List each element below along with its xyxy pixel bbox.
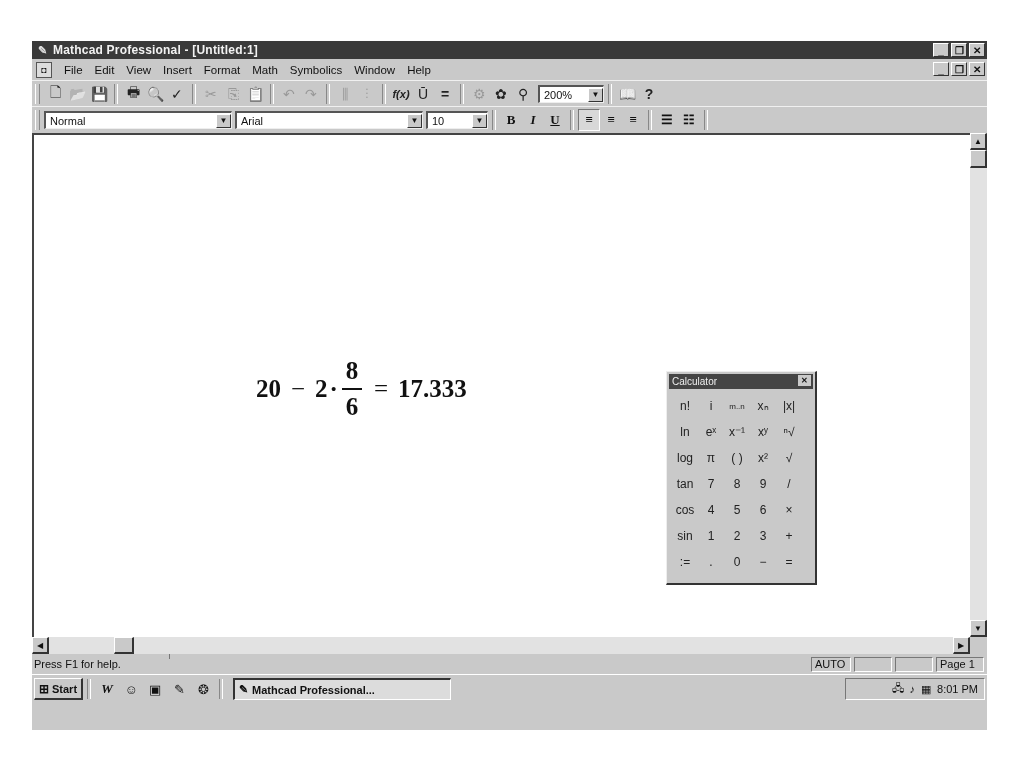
key-0[interactable]: 0: [724, 549, 750, 575]
nth-root-key[interactable]: ⁿ√: [776, 419, 802, 445]
key-4[interactable]: 4: [698, 497, 724, 523]
vertical-scroll-thumb[interactable]: [970, 150, 987, 168]
align-left-button[interactable]: ≡: [578, 109, 600, 131]
power-key[interactable]: xʸ: [750, 419, 776, 445]
open-icon[interactable]: 📂: [66, 83, 88, 105]
insert-unit-icon[interactable]: Ū: [412, 83, 434, 105]
underline-button[interactable]: U: [544, 109, 566, 131]
network-icon[interactable]: 🖧: [892, 680, 904, 699]
quicklaunch-icon-3[interactable]: ▣: [145, 679, 165, 699]
close-button[interactable]: ✕: [969, 43, 985, 57]
save-icon[interactable]: 💾: [88, 83, 110, 105]
bullets-button[interactable]: ☰: [656, 109, 678, 131]
horizontal-scrollbar[interactable]: ◀ ▶: [32, 637, 970, 654]
absolute-value-key[interactable]: |x|: [776, 393, 802, 419]
volume-icon[interactable]: ♪: [910, 683, 916, 695]
key-2[interactable]: 2: [724, 523, 750, 549]
copy-icon[interactable]: ⎘: [222, 83, 244, 105]
menu-edit[interactable]: Edit: [89, 64, 121, 76]
define-key[interactable]: :=: [672, 549, 698, 575]
inverse-key[interactable]: x⁻¹: [724, 419, 750, 445]
numbering-button[interactable]: ☷: [678, 109, 700, 131]
key-9[interactable]: 9: [750, 471, 776, 497]
exp-key[interactable]: eˣ: [698, 419, 724, 445]
quicklaunch-icon-5[interactable]: ❂: [193, 679, 213, 699]
italic-button[interactable]: I: [522, 109, 544, 131]
key-7[interactable]: 7: [698, 471, 724, 497]
insert-component-icon[interactable]: ⚙: [468, 83, 490, 105]
key-3[interactable]: 3: [750, 523, 776, 549]
task-mathcad[interactable]: ✎ Mathcad Professional...: [233, 678, 451, 700]
chevron-down-icon[interactable]: ▼: [216, 114, 231, 128]
key-6[interactable]: 6: [750, 497, 776, 523]
equals-key[interactable]: =: [776, 549, 802, 575]
toolbar-grip[interactable]: [35, 84, 40, 104]
word-icon[interactable]: W: [97, 679, 117, 699]
pi-key[interactable]: π: [698, 445, 724, 471]
chevron-down-icon[interactable]: ▼: [407, 114, 422, 128]
bold-button[interactable]: B: [500, 109, 522, 131]
print-preview-icon[interactable]: 🔍: [144, 83, 166, 105]
factorial-key[interactable]: n!: [672, 393, 698, 419]
calculate-icon[interactable]: =: [434, 83, 456, 105]
key-1[interactable]: 1: [698, 523, 724, 549]
electronic-book-icon[interactable]: ⚲: [512, 83, 534, 105]
zoom-select[interactable]: 200% ▼: [538, 85, 604, 103]
square-root-key[interactable]: √: [776, 445, 802, 471]
restore-button[interactable]: ❐: [951, 43, 967, 57]
minus-key[interactable]: −: [750, 549, 776, 575]
minimize-button[interactable]: _: [933, 43, 949, 57]
document-icon[interactable]: ◘: [36, 62, 52, 78]
ln-key[interactable]: ln: [672, 419, 698, 445]
menu-file[interactable]: File: [58, 64, 89, 76]
scroll-left-icon[interactable]: ◀: [32, 637, 49, 654]
tray-app-icon[interactable]: ▦: [921, 683, 931, 696]
insert-function-icon[interactable]: f(x): [390, 83, 412, 105]
menu-math[interactable]: Math: [246, 64, 284, 76]
menu-insert[interactable]: Insert: [157, 64, 198, 76]
align-right-button[interactable]: ≡: [622, 109, 644, 131]
horizontal-scroll-thumb[interactable]: [114, 637, 134, 654]
font-select[interactable]: Arial ▼: [235, 111, 423, 129]
menu-format[interactable]: Format: [198, 64, 246, 76]
scroll-right-icon[interactable]: ▶: [953, 637, 970, 654]
print-icon[interactable]: 🖶: [122, 83, 144, 105]
clock[interactable]: 8:01 PM: [937, 683, 978, 695]
resource-center-icon[interactable]: 📖: [616, 83, 638, 105]
tan-key[interactable]: tan: [672, 471, 698, 497]
log-key[interactable]: log: [672, 445, 698, 471]
scroll-down-icon[interactable]: ▼: [970, 620, 987, 637]
multiply-key[interactable]: ×: [776, 497, 802, 523]
cut-icon[interactable]: ✂: [200, 83, 222, 105]
sin-key[interactable]: sin: [672, 523, 698, 549]
font-size-select[interactable]: 10 ▼: [426, 111, 488, 129]
menu-symbolics[interactable]: Symbolics: [284, 64, 348, 76]
quicklaunch-icon-4[interactable]: ✎: [169, 679, 189, 699]
close-icon[interactable]: ✕: [798, 375, 811, 386]
calculator-title-bar[interactable]: Calculator ✕: [669, 374, 813, 389]
doc-restore-button[interactable]: ❐: [951, 62, 967, 76]
menu-help[interactable]: Help: [401, 64, 437, 76]
align-down-icon[interactable]: ⫶: [356, 83, 378, 105]
plus-key[interactable]: +: [776, 523, 802, 549]
range-key[interactable]: m..n: [724, 393, 750, 419]
cos-key[interactable]: cos: [672, 497, 698, 523]
divide-key[interactable]: /: [776, 471, 802, 497]
menu-window[interactable]: Window: [348, 64, 401, 76]
doc-close-button[interactable]: ✕: [969, 62, 985, 76]
worksheet[interactable]: 20 − 2 · 8 6 = 17.333 Calculator ✕ n! i …: [32, 133, 970, 637]
doc-minimize-button[interactable]: _: [933, 62, 949, 76]
redo-icon[interactable]: ↷: [300, 83, 322, 105]
help-icon[interactable]: ?: [638, 83, 660, 105]
key-8[interactable]: 8: [724, 471, 750, 497]
spell-check-icon[interactable]: ✓: [166, 83, 188, 105]
vertical-scrollbar[interactable]: ▲ ▼: [970, 133, 987, 637]
quicklaunch-icon-2[interactable]: ☺: [121, 679, 141, 699]
parentheses-key[interactable]: ( ): [724, 445, 750, 471]
style-select[interactable]: Normal ▼: [44, 111, 232, 129]
align-center-button[interactable]: ≡: [600, 109, 622, 131]
insert-resource-icon[interactable]: ✿: [490, 83, 512, 105]
paste-icon[interactable]: 📋: [244, 83, 266, 105]
key-5[interactable]: 5: [724, 497, 750, 523]
imaginary-key[interactable]: i: [698, 393, 724, 419]
